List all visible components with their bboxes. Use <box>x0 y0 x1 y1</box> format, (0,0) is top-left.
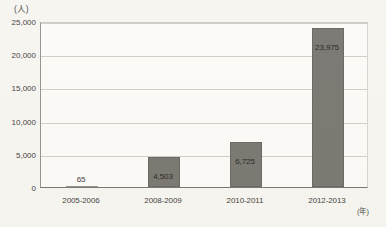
y-axis-tick-label: 0 <box>2 184 36 193</box>
y-axis-tick-labels: 05,00010,00015,00020,00025,000 <box>0 22 36 188</box>
x-axis-unit-label: (年) <box>357 205 369 216</box>
y-axis-tick-label: 5,000 <box>2 150 36 159</box>
bar-chart: (人) 05,00010,00015,00020,00025,000 (年) 6… <box>0 0 386 227</box>
y-axis-unit-label: (人) <box>14 2 29 14</box>
x-axis-tick-label: 2010-2011 <box>205 196 285 205</box>
x-axis-tick-label: 2008-2009 <box>123 196 203 205</box>
bar-value-label: 65 <box>51 175 111 184</box>
bar-value-label: 23,975 <box>297 43 357 52</box>
x-axis-tick-label: 2005-2006 <box>41 196 121 205</box>
bar-value-label: 6,725 <box>215 157 275 166</box>
x-axis-tick-label: 2012-2013 <box>287 196 367 205</box>
y-axis-tick-label: 20,000 <box>2 51 36 60</box>
gridline <box>41 23 367 24</box>
y-axis-tick-label: 25,000 <box>2 18 36 27</box>
y-axis-tick-label: 15,000 <box>2 84 36 93</box>
bar <box>66 186 98 188</box>
bar-value-label: 4,503 <box>133 172 193 181</box>
y-axis-tick-label: 10,000 <box>2 117 36 126</box>
